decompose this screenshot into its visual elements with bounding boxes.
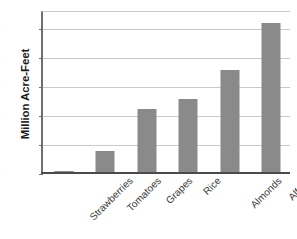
bar: [179, 99, 198, 173]
bar: [137, 109, 156, 173]
x-tick-label: Strawberries: [87, 175, 134, 222]
gridline: [43, 116, 290, 117]
bar: [96, 151, 115, 173]
x-axis-baseline: [41, 172, 290, 174]
gridline: [43, 58, 290, 59]
bar: [262, 23, 281, 173]
x-tick-label: Almonds: [248, 175, 283, 210]
gridline: [43, 29, 290, 30]
gridline: [43, 87, 290, 88]
plot-area: [41, 11, 290, 173]
y-tick-mark: [39, 87, 43, 88]
plot-inner: [43, 12, 290, 173]
y-tick-mark: [39, 116, 43, 117]
x-tick-label: Grapes: [163, 175, 194, 206]
gridline: [43, 145, 290, 146]
y-tick-mark: [39, 58, 43, 59]
x-axis-category-labels: StrawberriesTomatoesGrapesRiceAlmondsAlf…: [41, 175, 290, 239]
x-tick-label: Rice: [201, 175, 223, 197]
y-axis-title: Million Acre-Feet: [19, 24, 31, 164]
bar: [220, 70, 239, 173]
y-tick-mark: [39, 145, 43, 146]
y-tick-mark: [39, 29, 43, 30]
x-tick-label: Alfalfa: [286, 175, 297, 202]
bar-chart: Million Acre-Feet 012345 StrawberriesTom…: [0, 0, 297, 239]
